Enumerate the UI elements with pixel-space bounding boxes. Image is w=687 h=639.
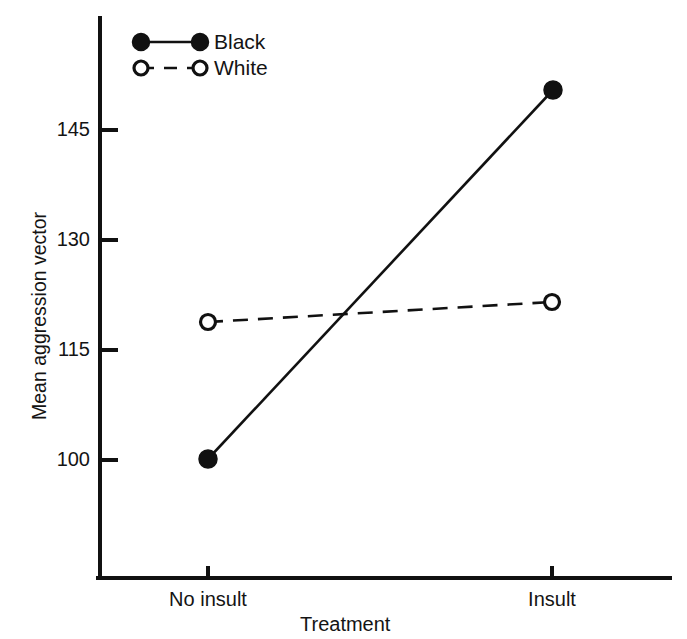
- y-axis-title: Mean aggression vector: [28, 212, 51, 420]
- legend-label-black: Black: [214, 30, 265, 54]
- y-tick-label-145: 145: [30, 118, 90, 141]
- datapoint-black-insult: [544, 81, 562, 99]
- legend-marker-black-right: [192, 34, 209, 51]
- y-tick-label-100: 100: [30, 448, 90, 471]
- x-axis-title: Treatment: [300, 613, 390, 636]
- datapoint-black-no-insult: [199, 450, 217, 468]
- x-tick-label-no-insult: No insult: [148, 588, 268, 611]
- legend-marker-white-left: [134, 61, 148, 75]
- legend-label-white: White: [214, 56, 268, 80]
- series-line-black: [208, 90, 553, 459]
- line-chart-canvas: [0, 0, 687, 639]
- chart-figure: Black White 145 130 115 100 No insult In…: [0, 0, 687, 639]
- datapoint-white-no-insult: [201, 315, 216, 330]
- legend-marker-black-left: [133, 34, 150, 51]
- datapoint-white-insult: [545, 295, 560, 310]
- series-line-white: [208, 302, 552, 322]
- x-tick-label-insult: Insult: [502, 588, 602, 611]
- legend-marker-white-right: [193, 61, 207, 75]
